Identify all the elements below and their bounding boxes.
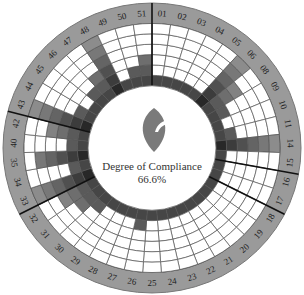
- sector-label: 01: [157, 8, 167, 19]
- bar-cell: [157, 209, 169, 221]
- empty-cell: [143, 252, 160, 263]
- empty-cell: [152, 23, 171, 35]
- compliance-radial-chart: 0102030405060809101114151617181920212223…: [0, 0, 304, 295]
- empty-cell: [136, 44, 152, 55]
- sector-label: 11: [282, 118, 293, 128]
- bar-cell: [216, 140, 227, 151]
- empty-cell: [157, 219, 170, 231]
- sector-label: 40: [8, 138, 18, 148]
- empty-cell: [35, 136, 46, 153]
- empty-cell: [45, 137, 56, 152]
- bar-cell: [141, 75, 152, 86]
- empty-cell: [161, 259, 180, 272]
- empty-cell: [145, 231, 159, 242]
- empty-cell: [152, 55, 166, 66]
- empty-cell: [135, 34, 152, 45]
- bar-cell: [67, 139, 78, 151]
- empty-cell: [144, 241, 160, 252]
- empty-cell: [24, 134, 35, 152]
- bar-cell: [269, 134, 280, 152]
- sector-label: 14: [285, 138, 295, 148]
- bar-cell: [138, 55, 152, 66]
- empty-cell: [152, 34, 169, 45]
- empty-cell: [56, 138, 67, 152]
- empty-cell: [152, 44, 168, 55]
- sector-label: 25: [148, 278, 158, 288]
- empty-cell: [133, 23, 152, 35]
- sector-label: 42: [10, 118, 21, 129]
- compliance-title: Degree of Compliance: [0, 160, 304, 173]
- bar-cell: [258, 136, 269, 153]
- empty-cell: [146, 220, 158, 231]
- bar-cell: [147, 210, 158, 221]
- bar-cell: [237, 138, 248, 152]
- empty-cell: [152, 65, 164, 76]
- bar-cell: [226, 139, 237, 151]
- empty-cell: [143, 262, 162, 273]
- compliance-value: 66.6%: [0, 173, 304, 186]
- bar-cell: [247, 137, 258, 152]
- bar-cell: [140, 65, 152, 76]
- empty-cell: [124, 259, 143, 272]
- bar-cell: [77, 140, 88, 151]
- sector-label: 51: [137, 8, 147, 19]
